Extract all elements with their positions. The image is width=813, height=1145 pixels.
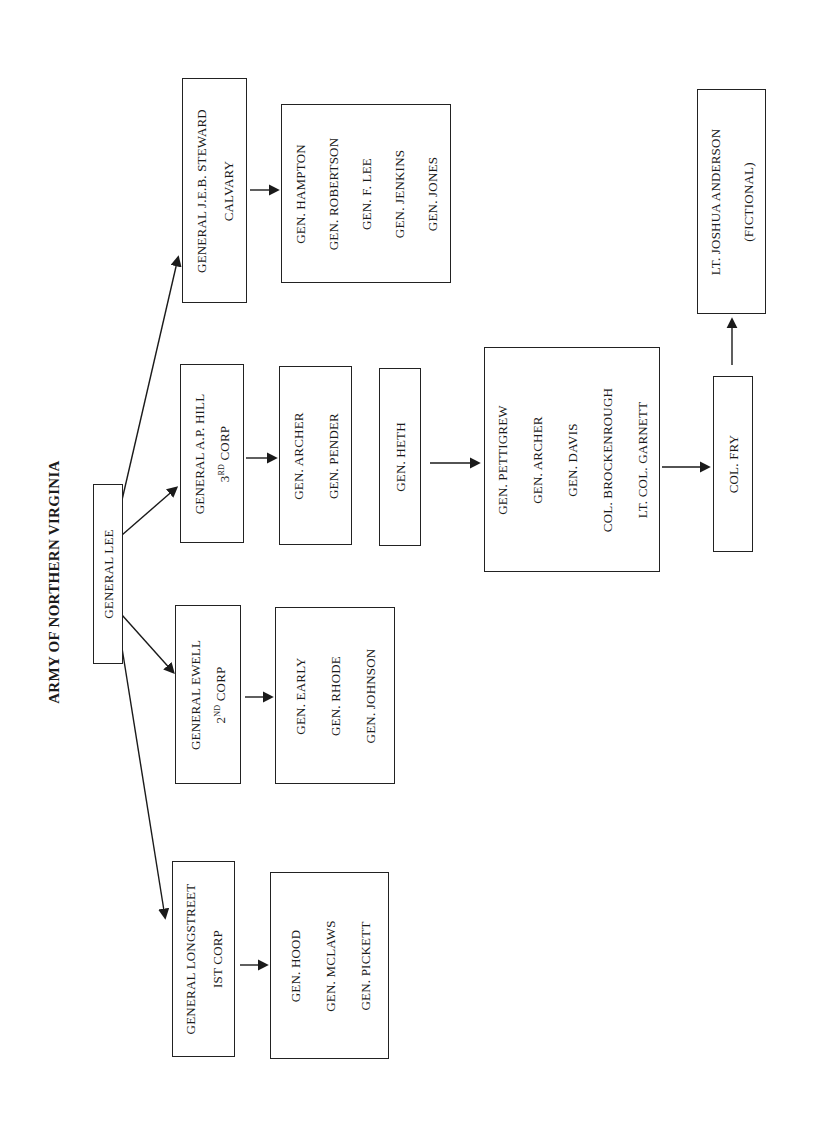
subordinate: GEN. RHODE bbox=[329, 648, 342, 743]
longstreet-label: GENERAL LONGSTREET bbox=[184, 884, 197, 1035]
stuart-unit: CALVARY bbox=[222, 109, 235, 273]
general-lee-box: GENERAL LEE bbox=[93, 484, 123, 664]
subordinate: GEN. JENKINS bbox=[393, 137, 406, 250]
subordinate: GEN. ARCHER bbox=[292, 412, 305, 499]
subordinate: LT. COL. GARNETT bbox=[636, 387, 649, 531]
subordinate: GEN. ROBERTSON bbox=[327, 137, 340, 250]
subordinate: GEN. F. LEE bbox=[360, 137, 373, 250]
stuart-label: GENERAL J.E.B. STEWARD bbox=[195, 109, 208, 273]
anderson-label: LT. JOSHUA ANDERSON bbox=[709, 128, 722, 274]
cavalry-subordinates-box: GEN. HAMPTON GEN. ROBERTSON GEN. F. LEE … bbox=[281, 104, 451, 283]
hill-unit: 3RD CORP bbox=[218, 393, 231, 514]
subordinate: GEN. ARCHER bbox=[531, 387, 544, 531]
longstreet-unit: IST CORP bbox=[211, 884, 224, 1035]
longstreet-box: GENERAL LONGSTREET IST CORP bbox=[172, 861, 235, 1057]
anderson-box: LT. JOSHUA ANDERSON (FICTIONAL) bbox=[697, 89, 766, 314]
subordinate: GEN. PICKETT bbox=[358, 920, 371, 1011]
hill-subordinates-box: GEN. ARCHER GEN. PENDER bbox=[279, 366, 352, 545]
longstreet-subordinates-box: GEN. HOOD GEN. MCLAWS GEN. PICKETT bbox=[270, 872, 389, 1059]
ewell-unit: 2ND CORP bbox=[214, 639, 227, 749]
subordinate: GEN. HOOD bbox=[288, 920, 301, 1011]
fry-label: COL. FRY bbox=[727, 435, 740, 494]
fry-box: COL. FRY bbox=[713, 376, 753, 552]
subordinate: GEN. HAMPTON bbox=[294, 137, 307, 250]
chart-title: ARMY OF NORTHERN VIRGINIA bbox=[46, 460, 63, 704]
ewell-box: GENERAL EWELL 2ND CORP bbox=[175, 605, 241, 784]
subordinate: GEN. MCLAWS bbox=[323, 920, 336, 1011]
hill-label: GENERAL A.P. HILL bbox=[193, 393, 206, 514]
subordinate: GEN. JOHNSON bbox=[364, 648, 377, 743]
hill-box: GENERAL A.P. HILL 3RD CORP bbox=[180, 364, 244, 543]
subordinate: COL. BROCKENROUGH bbox=[601, 387, 614, 531]
subordinate: GEN. EARLY bbox=[294, 648, 307, 743]
stuart-box: GENERAL J.E.B. STEWARD CALVARY bbox=[182, 78, 247, 303]
heth-label: GEN. HETH bbox=[394, 422, 407, 492]
subordinate: GEN. JONES bbox=[426, 137, 439, 250]
subordinate: GEN. PETTIGREW bbox=[496, 387, 509, 531]
ewell-subordinates-box: GEN. EARLY GEN. RHODE GEN. JOHNSON bbox=[275, 607, 395, 784]
general-lee-label: GENERAL LEE bbox=[102, 529, 115, 618]
anderson-note: (FICTIONAL) bbox=[742, 128, 755, 274]
subordinate: GEN. DAVIS bbox=[566, 387, 579, 531]
heth-division-box: GEN. PETTIGREW GEN. ARCHER GEN. DAVIS CO… bbox=[484, 347, 660, 572]
subordinate: GEN. PENDER bbox=[327, 412, 340, 499]
heth-box: GEN. HETH bbox=[379, 368, 421, 546]
ewell-label: GENERAL EWELL bbox=[189, 639, 202, 749]
